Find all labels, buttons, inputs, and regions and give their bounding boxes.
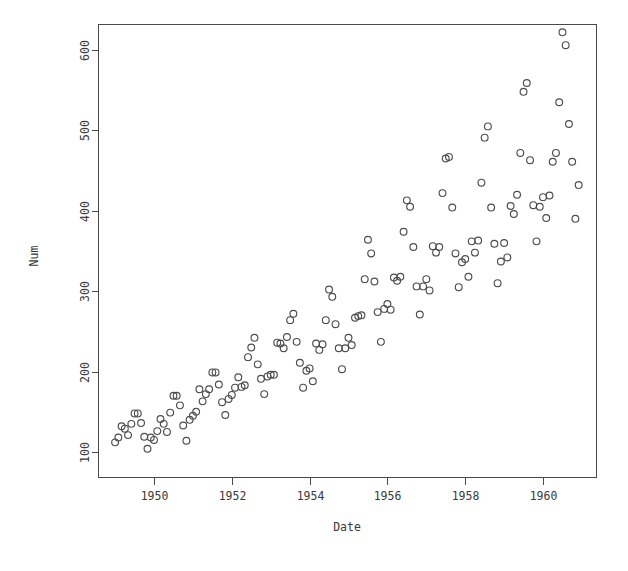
x-tick-label: 1956 xyxy=(374,489,402,503)
y-tick-label: 200 xyxy=(78,362,92,383)
chart-canvas: 100200300400500600 195019521954195619581… xyxy=(0,0,628,571)
x-axis-title: Date xyxy=(333,520,361,534)
y-tick-label: 100 xyxy=(78,442,92,463)
x-tick-label: 1954 xyxy=(297,489,325,503)
y-tick-label: 600 xyxy=(78,40,92,61)
figure-background xyxy=(0,0,628,571)
x-tick-label: 1960 xyxy=(530,489,558,503)
y-tick-label: 400 xyxy=(78,201,92,222)
y-tick-label: 300 xyxy=(78,281,92,302)
scatter-plot-figure: 100200300400500600 195019521954195619581… xyxy=(0,0,628,571)
x-tick-label: 1958 xyxy=(452,489,480,503)
y-tick-label: 500 xyxy=(78,120,92,141)
y-axis-title: Num xyxy=(27,246,41,267)
x-tick-label: 1950 xyxy=(141,489,169,503)
x-tick-label: 1952 xyxy=(219,489,247,503)
